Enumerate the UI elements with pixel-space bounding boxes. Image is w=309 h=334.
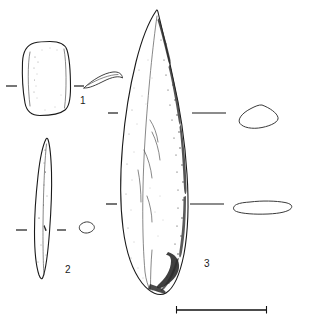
artifact-1-number: 1: [80, 96, 86, 106]
artifact-3-section-lower: [234, 201, 292, 214]
plate-drawing: [0, 0, 309, 334]
artifact-3-number: 3: [204, 259, 210, 269]
artifact-plate: 1 2 3: [0, 0, 309, 334]
scale-bar: [176, 306, 267, 314]
artifact-2-drawing: [16, 138, 66, 279]
artifact-2-number: 2: [65, 265, 71, 275]
artifact-2-section: [79, 222, 94, 233]
artifact-3-drawing: [106, 10, 226, 294]
artifact-3-section-upper: [239, 105, 278, 128]
artifact-1-drawing: [6, 42, 84, 116]
artifact-1-section: [84, 72, 123, 88]
